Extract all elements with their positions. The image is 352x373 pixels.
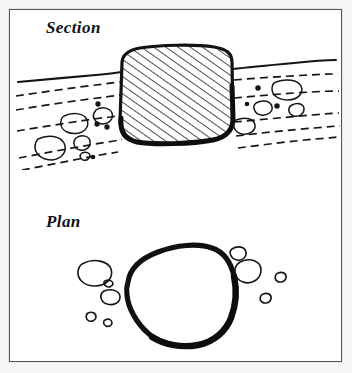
bedding-lines-right: [234, 74, 340, 148]
clast: [230, 247, 246, 260]
clast-dot: [96, 102, 100, 106]
figure-drawing: [0, 0, 352, 373]
clast: [78, 261, 112, 286]
clast: [104, 319, 112, 326]
section-clasts-left: [35, 102, 112, 160]
bedding-lines-left: [16, 82, 126, 170]
clast: [289, 104, 304, 117]
ground-surface-line-left: [18, 72, 121, 82]
clast: [86, 312, 96, 321]
clast-dot: [95, 122, 99, 126]
ground-surface-line-right: [233, 60, 336, 69]
section-panel-label: Section: [46, 18, 101, 38]
clast: [260, 293, 271, 303]
clast-dot: [256, 86, 260, 90]
clast: [101, 290, 120, 305]
clast-dot: [91, 155, 94, 158]
plan-clasts-left: [78, 261, 120, 327]
clast: [80, 152, 90, 160]
clast-dot: [105, 125, 109, 129]
figure-page: Section Plan: [0, 0, 352, 373]
clast: [35, 136, 65, 160]
clast: [272, 80, 302, 100]
clast: [74, 136, 90, 150]
plan-boulder-outline-weight: [152, 276, 236, 346]
clast: [235, 260, 261, 283]
clast: [254, 101, 272, 115]
plan-panel-label: Plan: [46, 212, 81, 232]
section-boulder: [110, 38, 245, 156]
clast: [61, 114, 88, 134]
clast-dot: [275, 104, 279, 108]
clast: [275, 272, 286, 282]
clast: [234, 118, 256, 134]
section-clasts-right: [234, 80, 304, 134]
plan-panel: [78, 245, 286, 346]
clast-dot: [245, 102, 248, 105]
section-panel: [16, 38, 340, 170]
